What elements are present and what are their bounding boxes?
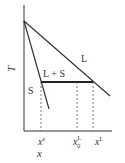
tick-xL: xL (94, 136, 103, 147)
x-axis-label: x (36, 147, 42, 159)
liquidus-line (24, 21, 110, 96)
solid-region-label: S (28, 85, 34, 96)
phase-diagram: T S L + S L xs xL0 xL x (0, 0, 125, 163)
tick-xs: xs (37, 136, 45, 147)
liquid-region-label: L (81, 53, 87, 64)
y-axis-label: T (5, 65, 17, 72)
two-phase-region-label: L + S (43, 68, 65, 79)
tick-x0L: xL0 (72, 135, 81, 149)
